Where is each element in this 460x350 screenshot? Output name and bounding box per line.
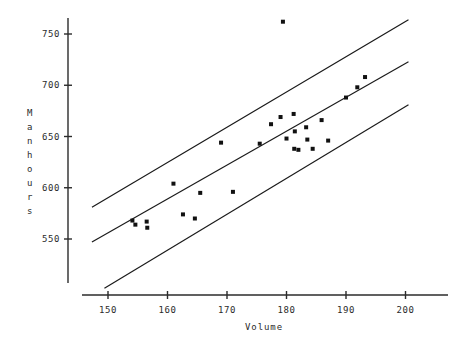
data-point-marker	[181, 212, 185, 216]
data-markers	[130, 20, 367, 230]
data-point-marker	[320, 118, 324, 122]
data-point-marker	[130, 219, 134, 223]
data-point-marker	[171, 182, 175, 186]
data-point-marker	[355, 85, 359, 89]
data-point-marker	[363, 75, 367, 79]
band-lines	[92, 20, 409, 289]
y-axis-title-letter: u	[24, 176, 36, 190]
data-point-marker	[292, 147, 296, 151]
y-tick-label: 750	[32, 29, 60, 39]
data-point-marker	[269, 122, 273, 126]
axis-lines	[68, 18, 448, 295]
data-point-marker	[258, 142, 262, 146]
y-axis-title-letter: o	[24, 162, 36, 176]
y-axis-title-letter: r	[24, 190, 36, 204]
scatter-plot-figure: 150160170180190200550600650700750 Manhou…	[0, 0, 460, 350]
data-point-marker	[198, 191, 202, 195]
data-point-marker	[311, 147, 315, 151]
y-axis-title-letter: s	[24, 204, 36, 218]
lower-band-line	[104, 105, 408, 288]
data-point-marker	[133, 223, 137, 227]
data-point-marker	[304, 125, 308, 129]
y-tick-label: 600	[32, 183, 60, 193]
data-point-marker	[296, 148, 300, 152]
data-point-marker	[279, 115, 283, 119]
center-fit-line	[92, 62, 409, 242]
upper-band-line	[92, 20, 409, 208]
data-point-marker	[293, 129, 297, 133]
plot-canvas	[0, 0, 460, 350]
data-point-marker	[193, 217, 197, 221]
data-point-marker	[145, 226, 149, 230]
x-tick-label: 160	[158, 305, 176, 315]
y-axis-title-letter: a	[24, 120, 36, 134]
y-tick-label: 650	[32, 132, 60, 142]
x-tick-label: 170	[218, 305, 236, 315]
x-axis-title: Volume	[245, 322, 283, 332]
data-point-marker	[281, 20, 285, 24]
y-axis-title: Manhours	[24, 106, 36, 218]
x-tick-label: 180	[277, 305, 295, 315]
y-axis-title-letter: M	[24, 106, 36, 120]
data-point-marker	[219, 141, 223, 145]
data-point-marker	[292, 112, 296, 116]
data-point-marker	[344, 96, 348, 100]
data-point-marker	[285, 137, 289, 141]
data-point-marker	[305, 138, 309, 142]
data-point-marker	[145, 220, 149, 224]
y-axis-title-letter: n	[24, 134, 36, 148]
y-tick-label: 700	[32, 80, 60, 90]
x-tick-label: 190	[337, 305, 355, 315]
x-tick-label: 200	[396, 305, 414, 315]
tick-marks	[64, 34, 406, 299]
data-point-marker	[326, 139, 330, 143]
y-axis-title-letter: h	[24, 148, 36, 162]
data-point-marker	[231, 190, 235, 194]
y-tick-label: 550	[32, 234, 60, 244]
x-tick-label: 150	[99, 305, 117, 315]
